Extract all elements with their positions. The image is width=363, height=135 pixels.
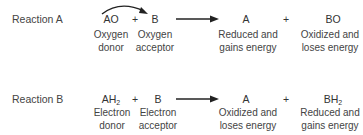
product-formula: BO [318, 13, 348, 26]
reactant-formula: B [145, 13, 165, 26]
reactant-formula: B [148, 93, 168, 106]
product-description: Reduced andgains energy [300, 107, 360, 132]
plus-sign: + [281, 13, 291, 25]
product-formula: A [236, 93, 256, 106]
reactant-description: Oxygendonor [82, 29, 140, 54]
reactant-description: Electronacceptor [136, 107, 180, 132]
reactant-formula: AH2 [94, 93, 128, 106]
product-description: Reduced andgains energy [218, 29, 278, 54]
reactant-formula: AO [96, 13, 126, 26]
reactant-description: Oxygenacceptor [133, 29, 177, 54]
plus-sign: + [281, 93, 291, 105]
reaction-arrow-icon [176, 94, 220, 104]
reaction-label: Reaction B [12, 93, 63, 105]
product-description: Oxidized andloses energy [298, 29, 362, 54]
plus-sign: + [130, 13, 140, 25]
reactant-description: Electrondonor [84, 107, 140, 132]
reaction-label: Reaction A [12, 13, 63, 25]
product-formula: BH2 [316, 93, 350, 106]
product-formula: A [236, 13, 256, 26]
reaction-arrow-icon [176, 14, 220, 24]
plus-sign: + [130, 93, 140, 105]
product-description: Oxidized andloses energy [216, 107, 280, 132]
